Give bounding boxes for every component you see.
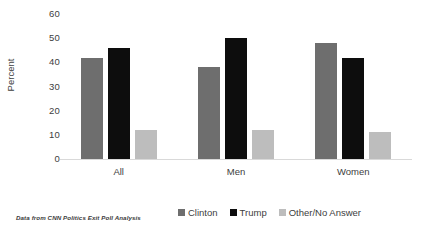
y-axis-tick-label: 30 xyxy=(14,82,60,92)
legend-label: Other/No Answer xyxy=(289,207,361,218)
y-axis-tick-label: 40 xyxy=(14,57,60,67)
bar-other-no-answer-all xyxy=(135,130,157,159)
legend-label: Clinton xyxy=(188,207,218,218)
bar-clinton-men xyxy=(198,67,220,159)
y-axis: Percent 0102030405060 xyxy=(0,0,60,238)
bar-group xyxy=(60,14,177,159)
bar-trump-all xyxy=(108,48,130,159)
legend-swatch-icon xyxy=(279,209,286,216)
bar-other-no-answer-women xyxy=(369,132,391,159)
x-axis-label-women: Women xyxy=(295,166,412,177)
y-axis-tick-label: 0 xyxy=(14,154,60,164)
plot-area xyxy=(60,14,412,159)
bar-group xyxy=(295,14,412,159)
x-axis-baseline xyxy=(60,159,412,160)
y-axis-title: Percent xyxy=(6,40,16,110)
bar-trump-men xyxy=(225,38,247,159)
legend-swatch-icon xyxy=(178,209,185,216)
legend-label: Trump xyxy=(240,207,267,218)
y-axis-tick-label: 60 xyxy=(14,9,60,19)
source-note: Data from CNN Politics Exit Poll Analysi… xyxy=(16,214,141,222)
bar-chart: Percent 0102030405060 AllMenWomen Clinto… xyxy=(0,0,427,238)
chart-legend: ClintonTrumpOther/No Answer xyxy=(178,207,361,218)
y-axis-tick-label: 20 xyxy=(14,106,60,116)
bar-trump-women xyxy=(342,58,364,160)
x-axis-label-men: Men xyxy=(177,166,294,177)
bar-other-no-answer-men xyxy=(252,130,274,159)
bar-clinton-all xyxy=(81,58,103,160)
x-axis-label-all: All xyxy=(60,166,177,177)
y-axis-tick-label: 10 xyxy=(14,130,60,140)
legend-swatch-icon xyxy=(230,209,237,216)
legend-item[interactable]: Clinton xyxy=(178,207,218,218)
bar-clinton-women xyxy=(315,43,337,159)
legend-item[interactable]: Other/No Answer xyxy=(279,207,361,218)
y-axis-tick-label: 50 xyxy=(14,33,60,43)
bar-group xyxy=(177,14,294,159)
legend-item[interactable]: Trump xyxy=(230,207,267,218)
